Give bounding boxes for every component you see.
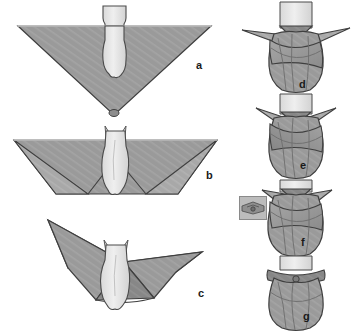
- bottom-flap-folded-icon: [6, 120, 226, 206]
- cloth-bundle-g: [269, 278, 323, 331]
- first-wrap-icon: [240, 2, 352, 94]
- fastener-knot-g: [293, 276, 299, 282]
- panel-label-g: g: [303, 311, 310, 322]
- panel-label-e: e: [300, 160, 306, 171]
- panel-b-step-2: [6, 120, 226, 206]
- closure-detail-icon: [240, 197, 266, 219]
- side-wings-raised-icon: [6, 210, 226, 322]
- infant-head-e: [280, 94, 312, 114]
- panel-label-b: b: [206, 170, 213, 181]
- panel-g-step-7: [240, 256, 352, 332]
- panel-e-step-5: [240, 94, 352, 180]
- inset-fastener: [251, 207, 255, 211]
- closure-detail-inset: [239, 196, 267, 220]
- infant-body-c: [101, 245, 130, 310]
- infant-head-d: [280, 2, 312, 28]
- panel-c-step-3: [6, 210, 226, 322]
- panel-d-step-4: [240, 2, 352, 94]
- panel-label-c: c: [198, 288, 204, 299]
- panel-label-a: a: [196, 60, 202, 71]
- panel-a-step-1: [6, 6, 226, 118]
- infant-torso-a: [103, 26, 127, 78]
- completed-swaddle-icon: [240, 256, 352, 332]
- second-wrap-icon: [240, 94, 352, 180]
- panel-label-d: d: [299, 79, 306, 90]
- cloth-bottom-point-a: [109, 110, 119, 117]
- infant-head-g: [280, 256, 312, 270]
- panel-label-f: f: [301, 237, 305, 248]
- figure-root: a b: [0, 0, 357, 332]
- triangle-cloth-flat-icon: [6, 6, 226, 118]
